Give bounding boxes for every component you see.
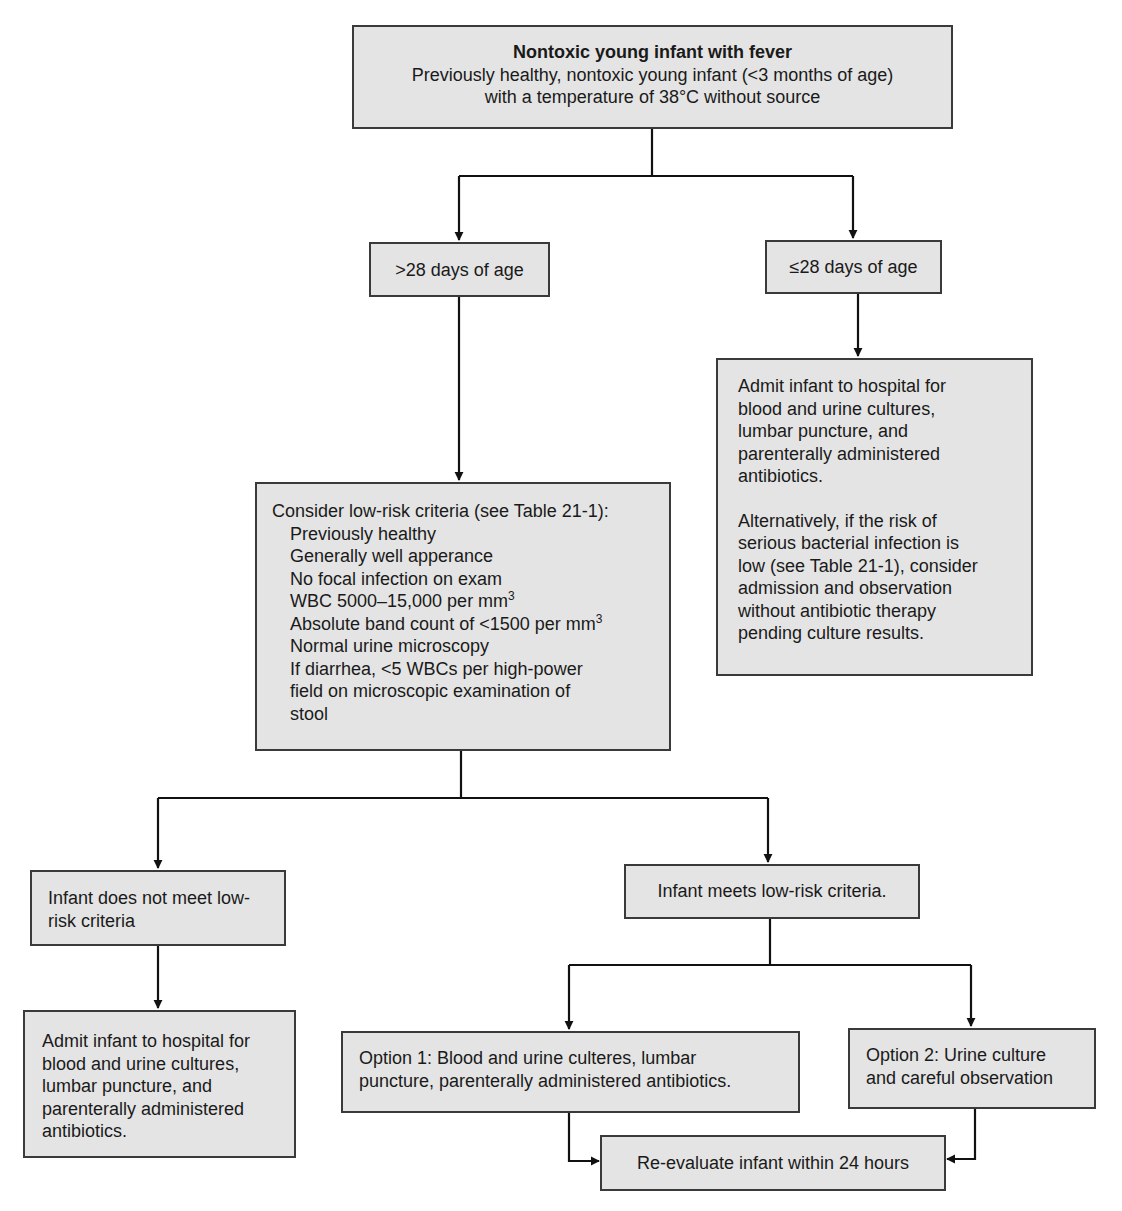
le28-action-p2-line: low (see Table 21-1), consider xyxy=(738,555,1031,578)
option1-node: Option 1: Blood and urine culteres, lumb… xyxy=(341,1031,800,1113)
option2-line: and careful observation xyxy=(866,1067,1094,1090)
le28-action-p1-line: lumbar puncture, and xyxy=(738,420,1031,443)
criteria-item: Generally well apperance xyxy=(272,545,669,568)
not-low-risk-line: risk criteria xyxy=(48,910,284,933)
le28-action-p1-line: antibiotics. xyxy=(738,465,1031,488)
not-low-risk-action-line: Admit infant to hospital for xyxy=(42,1030,294,1053)
le28-action-p2-line: pending culture results. xyxy=(738,622,1031,645)
le28-action-p1-line: Admit infant to hospital for xyxy=(738,375,1031,398)
criteria-band-text: Absolute band count of <1500 per mm xyxy=(290,614,596,634)
criteria-item: Normal urine microscopy xyxy=(272,635,669,658)
paragraph-gap xyxy=(738,488,1031,510)
not-low-risk-action-line: antibiotics. xyxy=(42,1120,294,1143)
le28-action-p2-line: Alternatively, if the risk of xyxy=(738,510,1031,533)
criteria-item: No focal infection on exam xyxy=(272,568,669,591)
option1-line: puncture, parenterally administered anti… xyxy=(359,1070,798,1093)
superscript: 3 xyxy=(508,589,515,603)
superscript: 3 xyxy=(596,612,603,626)
criteria-item: field on microscopic examination of xyxy=(272,680,669,703)
low-risk-criteria-node: Consider low-risk criteria (see Table 21… xyxy=(255,482,671,751)
gt28-days-node: >28 days of age xyxy=(369,242,550,297)
arrow-option2-to-reevaluate xyxy=(947,1108,975,1159)
arrow-option1-to-reevaluate xyxy=(569,1112,599,1161)
le28-action-p1-line: parenterally administered xyxy=(738,443,1031,466)
root-line-1: Previously healthy, nontoxic young infan… xyxy=(354,64,951,87)
not-low-risk-action-line: parenterally administered xyxy=(42,1098,294,1121)
option1-line: Option 1: Blood and urine culteres, lumb… xyxy=(359,1047,798,1070)
not-low-risk-node: Infant does not meet low- risk criteria xyxy=(30,870,286,946)
le28-days-node: ≤28 days of age xyxy=(765,240,942,294)
reevaluate-node: Re-evaluate infant within 24 hours xyxy=(600,1135,946,1191)
root-line-2: with a temperature of 38°C without sourc… xyxy=(354,86,951,109)
option2-line: Option 2: Urine culture xyxy=(866,1044,1094,1067)
criteria-item: If diarrhea, <5 WBCs per high-power xyxy=(272,658,669,681)
le28-action-node: Admit infant to hospital for blood and u… xyxy=(716,358,1033,676)
option2-node: Option 2: Urine culture and careful obse… xyxy=(848,1028,1096,1109)
le28-action-p1-line: blood and urine cultures, xyxy=(738,398,1031,421)
root-node: Nontoxic young infant with fever Previou… xyxy=(352,25,953,129)
le28-action-p2-line: admission and observation xyxy=(738,577,1031,600)
not-low-risk-action-node: Admit infant to hospital for blood and u… xyxy=(23,1010,296,1158)
le28-label: ≤28 days of age xyxy=(767,256,940,279)
criteria-wbc-text: WBC 5000–15,000 per mm xyxy=(290,591,508,611)
reevaluate-label: Re-evaluate infant within 24 hours xyxy=(602,1152,944,1175)
criteria-heading: Consider low-risk criteria (see Table 21… xyxy=(272,500,669,523)
not-low-risk-line: Infant does not meet low- xyxy=(48,887,284,910)
root-title: Nontoxic young infant with fever xyxy=(354,41,951,64)
le28-action-p2-line: serious bacterial infection is xyxy=(738,532,1031,555)
criteria-item-wbc: WBC 5000–15,000 per mm3 xyxy=(272,590,669,613)
gt28-label: >28 days of age xyxy=(371,259,548,282)
criteria-item: stool xyxy=(272,703,669,726)
low-risk-node: Infant meets low-risk criteria. xyxy=(624,864,920,919)
not-low-risk-action-line: blood and urine cultures, xyxy=(42,1053,294,1076)
low-risk-label: Infant meets low-risk criteria. xyxy=(626,880,918,903)
criteria-item: Previously healthy xyxy=(272,523,669,546)
not-low-risk-action-line: lumbar puncture, and xyxy=(42,1075,294,1098)
le28-action-p2-line: without antibiotic therapy xyxy=(738,600,1031,623)
criteria-item-band: Absolute band count of <1500 per mm3 xyxy=(272,613,669,636)
